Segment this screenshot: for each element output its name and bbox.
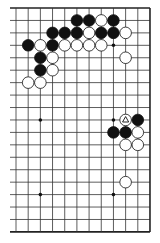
white-stone (71, 40, 83, 52)
black-stone (95, 27, 107, 39)
black-stone (108, 15, 120, 27)
white-stone (95, 40, 107, 52)
black-stone (59, 27, 71, 39)
white-stone (35, 40, 47, 52)
white-stone (22, 77, 34, 89)
white-stone (83, 40, 95, 52)
white-stone (132, 127, 144, 139)
star-point (112, 118, 116, 122)
black-stone (120, 127, 132, 139)
star-point (39, 193, 43, 197)
white-stone (95, 15, 107, 27)
white-stone (120, 52, 132, 64)
black-stone (47, 27, 59, 39)
black-stone (71, 27, 83, 39)
go-board (0, 0, 160, 243)
black-stone (108, 127, 120, 139)
star-point (39, 118, 43, 122)
white-stone (47, 52, 59, 64)
black-stone (71, 15, 83, 27)
white-stone (120, 139, 132, 151)
white-stone (120, 27, 132, 39)
white-stone (120, 176, 132, 188)
white-stone (132, 139, 144, 151)
black-stone (35, 64, 47, 76)
black-stone (35, 52, 47, 64)
black-stone (47, 40, 59, 52)
black-stone (22, 40, 34, 52)
star-point (112, 193, 116, 197)
white-stone (59, 40, 71, 52)
star-point (112, 44, 116, 48)
black-stone (83, 15, 95, 27)
white-stone (35, 77, 47, 89)
black-stone (132, 114, 144, 126)
white-stone (47, 64, 59, 76)
white-stone (83, 27, 95, 39)
black-stone (108, 27, 120, 39)
